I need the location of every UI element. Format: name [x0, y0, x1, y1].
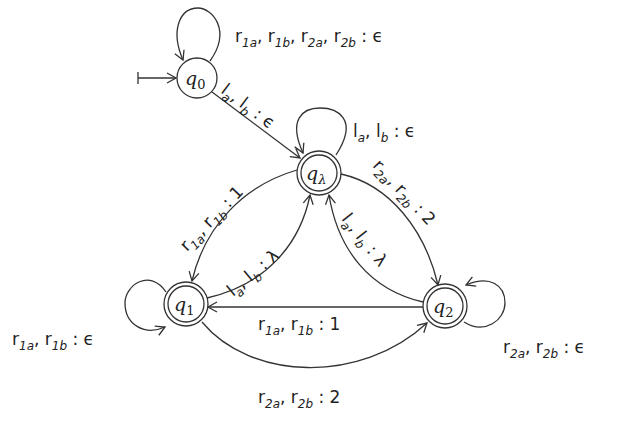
label-q2-loop: r2a, r2b : ϵ — [503, 337, 585, 361]
label-q1-loop: r1a, r1b : ϵ — [12, 329, 94, 353]
initial-arrow — [138, 72, 176, 84]
label-q2-q1: r1a, r1b : 1 — [258, 314, 340, 338]
label-qlambda-q2: r2a, r2b : 2 — [366, 155, 440, 232]
state-qlambda: qλ — [297, 151, 341, 195]
state-q2: q2 — [423, 284, 467, 328]
edge-q2-loop — [464, 281, 505, 327]
label-q1-qlambda: la, lb : λ — [223, 245, 286, 303]
state-diagram: r1a, r1b, r2a, r2b : ϵ la, lb : ϵ la, lb… — [0, 0, 632, 423]
edge-q1-loop — [125, 280, 166, 330]
state-q0: q0 — [177, 58, 217, 98]
edge-qlambda-loop — [297, 108, 346, 155]
label-q0-loop: r1a, r1b, r2a, r2b : ϵ — [235, 26, 383, 50]
label-qlambda-q1: r1a, r1b : 1 — [175, 182, 250, 258]
edge-q0-loop — [177, 8, 220, 61]
label-q0-qlambda: la, lb : ϵ — [215, 79, 279, 136]
label-qlambda-loop: la, lb : ϵ — [353, 121, 415, 145]
state-q1: q1 — [164, 282, 208, 326]
label-q1-q2: r2a, r2b : 2 — [258, 387, 340, 411]
